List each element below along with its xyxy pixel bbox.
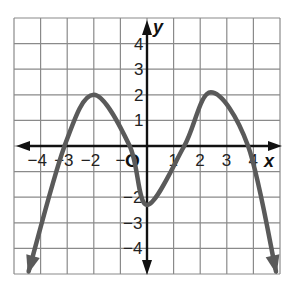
x-axis-left-arrow-icon — [16, 141, 30, 151]
y-tick-label: 1 — [134, 111, 143, 130]
y-tick-label: 4 — [134, 35, 143, 54]
function-graph: yxO−4−3−2−12344321−2−3−4 — [0, 0, 288, 298]
y-tick-label: −4 — [123, 239, 142, 258]
x-tick-label: −4 — [28, 151, 47, 170]
y-axis-up-arrow-icon — [142, 20, 152, 35]
y-axis-label: y — [152, 17, 164, 37]
curve-left-arrow-icon — [26, 254, 39, 274]
x-tick-label: 3 — [222, 151, 231, 170]
y-axis-down-arrow-icon — [142, 260, 152, 275]
tick-labels: yxO−4−3−2−12344321−2−3−4 — [28, 17, 275, 258]
function-curve — [26, 92, 279, 274]
x-tick-label: 2 — [195, 151, 204, 170]
x-axis-label: x — [263, 151, 275, 171]
y-tick-label: −3 — [123, 214, 142, 233]
y-tick-label: 2 — [134, 86, 143, 105]
x-tick-label: −2 — [81, 151, 100, 170]
axes — [16, 20, 282, 275]
y-tick-label: 3 — [134, 60, 143, 79]
x-tick-label: − — [115, 151, 125, 170]
curve-path — [29, 92, 276, 271]
